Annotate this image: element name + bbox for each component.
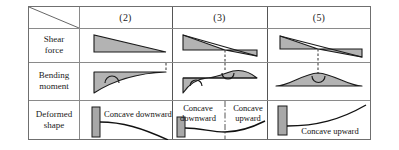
row-label-shear-line2: force [45, 45, 63, 56]
beam-diagram-figure: (2) (3) (5) Shear force Bending moment D… [0, 0, 399, 150]
deformed-diagram-col3: Concave downward Concave upward [173, 101, 267, 140]
shear-diagram-col3 [173, 29, 267, 62]
row-label-moment-line1: Bending [39, 70, 70, 81]
column-header-5: (5) [267, 7, 371, 28]
moment-diagram-col3 [173, 63, 267, 100]
deformed-caption-col2: Concave downward [104, 109, 170, 119]
deformed-diagram-col2: Concave downward [80, 101, 172, 140]
row-label-shear-force: Shear force [29, 28, 79, 62]
moment-diagram-col5 [268, 63, 371, 100]
shear-diagram-col2 [80, 29, 172, 62]
row-label-deformed-shape: Deformed shape [29, 100, 79, 140]
row-label-moment-line2: moment [39, 81, 69, 92]
column-header-3: (3) [172, 7, 267, 28]
corner-diagonal-icon [29, 7, 79, 28]
column-header-2: (2) [79, 7, 172, 28]
shear-diagram-col5 [268, 29, 371, 62]
moment-diagram-col2 [80, 63, 172, 100]
row-label-bending-moment: Bending moment [29, 62, 79, 100]
row-label-deformed-line1: Deformed [36, 109, 72, 120]
deformed-caption-col3-left: Concave downward [175, 103, 221, 123]
row-label-deformed-line2: shape [44, 120, 65, 131]
deformed-diagram-col5: Concave upward [268, 101, 371, 140]
deformed-caption-col5: Concave upward [294, 126, 366, 136]
row-label-shear-line1: Shear [44, 34, 65, 45]
comparison-table: (2) (3) (5) Shear force Bending moment D… [28, 6, 371, 140]
deformed-caption-col3-right: Concave upward [228, 103, 267, 123]
